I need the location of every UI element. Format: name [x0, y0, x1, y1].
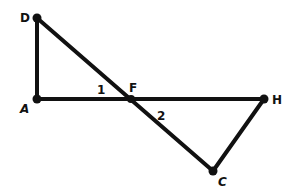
angle-label-1: 1 — [97, 83, 105, 97]
label-H: H — [272, 93, 282, 107]
point-H — [260, 95, 269, 104]
point-A — [33, 95, 42, 104]
point-F — [127, 95, 135, 103]
segment-HC — [213, 99, 264, 171]
point-C — [209, 167, 218, 176]
angle-label-2: 2 — [157, 109, 165, 123]
label-C: C — [218, 175, 227, 189]
diagram-svg: D A F H C 1 2 — [0, 0, 294, 194]
geometry-diagram: D A F H C 1 2 — [0, 0, 294, 194]
label-A: A — [19, 102, 29, 116]
segment-DC — [37, 18, 213, 171]
label-F: F — [129, 81, 137, 95]
point-D — [33, 14, 42, 23]
label-D: D — [20, 11, 30, 25]
